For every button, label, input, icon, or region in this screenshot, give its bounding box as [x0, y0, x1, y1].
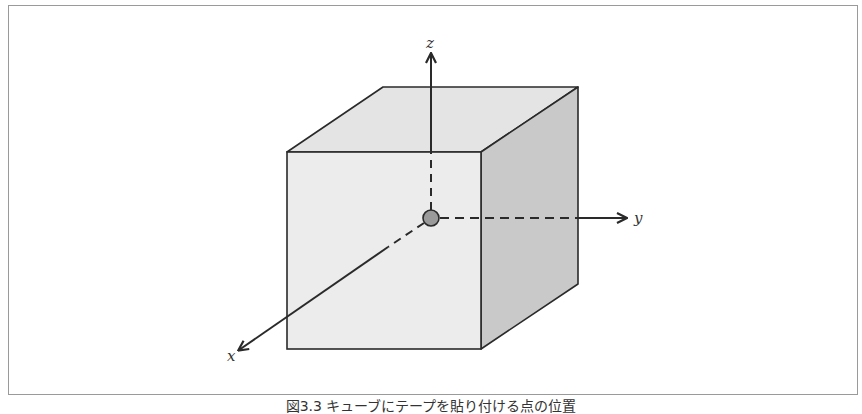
origin-point: [423, 210, 439, 226]
y-axis-label: y: [633, 209, 643, 227]
figure-caption: 図3.3 キューブにテープを貼り付ける点の位置: [0, 398, 862, 414]
z-axis-label: z: [425, 34, 434, 52]
x-axis-label: x: [227, 347, 236, 365]
